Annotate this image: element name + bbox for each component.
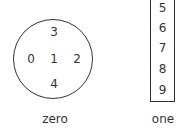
circle-item-bottom: 4 bbox=[47, 77, 61, 91]
box-item: 6 bbox=[151, 21, 174, 35]
box-item: 9 bbox=[151, 83, 174, 97]
circle-item-center: 1 bbox=[47, 52, 61, 66]
box-item: 8 bbox=[151, 62, 174, 76]
circle-item-right: 2 bbox=[70, 52, 84, 66]
circle-item-top: 3 bbox=[47, 25, 61, 39]
box-shape: 5 6 7 8 9 bbox=[150, 0, 175, 102]
box-item: 7 bbox=[151, 41, 174, 55]
circle-item-left: 0 bbox=[24, 52, 38, 66]
box-item: 5 bbox=[151, 1, 174, 15]
circle-label: zero bbox=[33, 112, 77, 126]
box-label: one bbox=[145, 112, 179, 126]
